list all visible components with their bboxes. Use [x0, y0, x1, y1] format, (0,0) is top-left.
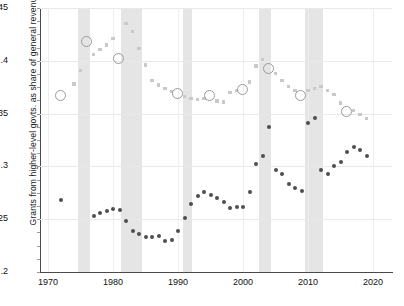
x-axis-tick-label: 1970: [25, 277, 71, 287]
data-point-dark: [352, 145, 356, 149]
y-axis-minor-tick: [37, 232, 40, 233]
data-point-dark: [137, 232, 141, 236]
y-axis-minor-tick: [37, 8, 40, 9]
data-point-dark: [274, 168, 278, 172]
y-axis-minor-tick: [37, 74, 40, 75]
data-point-light-highlight: [81, 36, 92, 47]
data-point-dark: [261, 154, 265, 158]
recession-band: [78, 8, 90, 272]
data-point-light: [254, 64, 257, 67]
y-axis-minor-tick: [37, 34, 40, 35]
y-axis-minor-tick: [37, 100, 40, 101]
gridline-x: [243, 8, 244, 272]
data-point-light-highlight: [341, 106, 352, 117]
data-point-light: [111, 37, 114, 40]
data-point-light: [131, 30, 134, 33]
data-point-light: [144, 63, 147, 66]
data-point-dark: [196, 194, 200, 198]
data-point-light: [326, 89, 329, 92]
data-point-light: [79, 69, 82, 72]
data-point-light: [92, 53, 95, 56]
data-point-dark: [365, 154, 369, 158]
data-point-light: [352, 109, 355, 112]
data-point-light: [105, 43, 108, 46]
y-axis-minor-tick: [37, 166, 40, 167]
data-point-dark: [183, 216, 187, 220]
y-axis-minor-tick: [37, 61, 40, 62]
data-point-dark: [332, 164, 336, 168]
recession-band: [259, 8, 271, 272]
data-point-light: [163, 87, 166, 90]
data-point-dark: [131, 229, 135, 233]
data-point-light: [306, 89, 309, 92]
data-point-light: [287, 85, 290, 88]
data-point-light: [228, 91, 231, 94]
data-point-dark: [248, 190, 252, 194]
data-point-light-highlight: [113, 53, 124, 64]
data-point-light: [215, 99, 218, 102]
data-point-light: [222, 100, 225, 103]
y-axis-minor-tick: [37, 87, 40, 88]
data-point-dark: [300, 189, 304, 193]
data-point-dark: [339, 160, 343, 164]
data-point-light: [196, 98, 199, 101]
data-point-dark: [111, 207, 115, 211]
x-axis-tick-label: 1980: [90, 277, 136, 287]
x-axis-line: [40, 272, 393, 273]
data-point-light-highlight: [204, 90, 215, 101]
data-point-dark: [280, 172, 284, 176]
data-point-light: [339, 101, 342, 104]
gridline-y: [40, 219, 392, 220]
data-point-light: [72, 82, 75, 85]
x-axis-tick-label: 2000: [220, 277, 266, 287]
data-point-light: [319, 85, 322, 88]
gridline-y: [40, 166, 392, 167]
data-point-light: [98, 48, 101, 51]
data-point-dark: [235, 205, 239, 209]
data-point-dark: [98, 211, 102, 215]
data-point-dark: [118, 208, 122, 212]
y-axis-tick-label: .2: [0, 266, 8, 276]
y-axis-minor-tick: [37, 206, 40, 207]
y-axis-tick-label: .25: [0, 213, 8, 223]
gridline-x: [308, 8, 309, 272]
data-point-dark: [358, 148, 362, 152]
plot-area: [40, 8, 392, 272]
y-axis-minor-tick: [37, 48, 40, 49]
data-point-dark: [228, 206, 232, 210]
data-point-light: [280, 79, 283, 82]
x-axis-tick-label: 2010: [285, 277, 331, 287]
y-axis-minor-tick: [37, 21, 40, 22]
data-point-light: [261, 58, 264, 61]
data-point-dark: [105, 209, 109, 213]
chart-root: Grants from higher-level govts. as share…: [0, 0, 404, 306]
y-axis-tick-label: .35: [0, 108, 8, 118]
y-axis-minor-tick: [37, 246, 40, 247]
y-axis-tick-label: .3: [0, 160, 8, 170]
gridline-y: [40, 114, 392, 115]
data-point-dark: [319, 168, 323, 172]
data-point-light: [248, 80, 251, 83]
data-point-dark: [189, 202, 193, 206]
y-axis-minor-tick: [37, 219, 40, 220]
y-axis-tick-label: .4: [0, 55, 8, 65]
y-axis-minor-tick: [37, 127, 40, 128]
data-point-dark: [163, 239, 167, 243]
y-axis-minor-tick: [37, 193, 40, 194]
data-point-light: [124, 22, 127, 25]
data-point-dark: [202, 190, 206, 194]
y-axis-minor-tick: [37, 153, 40, 154]
x-axis-tick-label: 1990: [155, 277, 201, 287]
data-point-light: [183, 95, 186, 98]
data-point-light: [274, 72, 277, 75]
y-axis-tick-label: .45: [0, 2, 8, 12]
data-point-light: [313, 87, 316, 90]
data-point-dark: [326, 172, 330, 176]
gridline-y: [40, 61, 392, 62]
data-point-dark: [150, 235, 154, 239]
data-point-dark: [293, 186, 297, 190]
y-axis-minor-tick: [37, 259, 40, 260]
data-point-light: [358, 113, 361, 116]
data-point-light: [189, 97, 192, 100]
data-point-dark: [209, 193, 213, 197]
